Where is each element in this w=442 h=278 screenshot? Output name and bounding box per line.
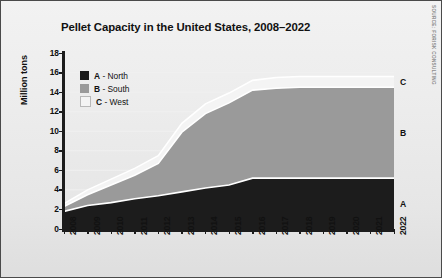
y-axis-tick-mark (59, 150, 62, 152)
x-axis-tick-2017: 2017 (280, 217, 290, 235)
y-axis-tick-mark (59, 209, 62, 211)
x-axis-tick-mark (299, 231, 301, 234)
x-axis-tick-2014: 2014 (209, 217, 219, 235)
legend-label: A - North (94, 71, 128, 81)
legend-label: B - South (94, 84, 129, 94)
x-axis-tick-2015: 2015 (233, 217, 243, 235)
x-axis-tick-mark (394, 231, 396, 234)
x-axis-tick-mark (252, 231, 254, 234)
legend-swatch-west (80, 96, 91, 107)
x-axis-tick-mark (87, 231, 89, 234)
y-axis-tick-12: 12 (50, 107, 59, 115)
legend-item-south[interactable]: B - South (80, 83, 129, 95)
chart-figure: Pellet Capacity in the United States, 20… (0, 0, 442, 278)
y-axis-tick-16: 16 (50, 68, 59, 76)
y-axis-tick-mark (59, 111, 62, 113)
x-axis-tick-2013: 2013 (186, 217, 196, 235)
source-note: SOURCE: FORISK CONSULTING (428, 5, 439, 125)
x-axis-tick-2020: 2020 (351, 217, 361, 235)
band-label-b: B (400, 128, 406, 138)
y-axis-tick-mark (59, 229, 62, 231)
legend-label: C - West (96, 97, 128, 107)
x-axis-tick-mark (346, 231, 348, 234)
x-axis-tick-mark (111, 231, 113, 234)
y-axis-tick-18: 18 (50, 49, 59, 57)
x-axis-tick-2019: 2019 (327, 217, 337, 235)
legend-swatch-south (80, 84, 89, 93)
legend-item-north[interactable]: A - North (80, 70, 129, 82)
x-axis-tick-2010: 2010 (115, 217, 125, 235)
x-axis-tick-2008: 2008 (68, 217, 78, 235)
x-axis-tick-mark (158, 231, 160, 234)
x-axis-tick-2011: 2011 (139, 217, 149, 235)
y-axis-tick-14: 14 (50, 88, 59, 96)
x-axis-tick-2016: 2016 (257, 217, 267, 235)
x-axis-tick-2022: 2022 (398, 217, 408, 235)
legend: A - NorthB - SouthC - West (80, 70, 129, 109)
x-axis-tick-2018: 2018 (304, 217, 314, 235)
y-axis-tick-mark (59, 170, 62, 172)
y-axis-tick-mark (59, 131, 62, 133)
legend-swatch-north (80, 71, 89, 80)
x-axis-tick-mark (205, 231, 207, 234)
y-axis-tick-mark (59, 53, 62, 55)
legend-item-west[interactable]: C - West (80, 96, 129, 108)
y-axis-tick-labels: 024681012141618 (31, 1, 59, 278)
y-axis-tick-mark (59, 92, 62, 94)
y-axis-tick-mark (59, 72, 62, 74)
x-axis-tick-2009: 2009 (92, 217, 102, 235)
x-axis-tick-mark (276, 231, 278, 234)
x-axis-tick-2021: 2021 (374, 217, 384, 235)
y-axis-title: Million tons (19, 55, 29, 105)
page-title: Pellet Capacity in the United States, 20… (61, 21, 310, 33)
x-axis-tick-mark (323, 231, 325, 234)
band-label-a: A (400, 199, 406, 209)
x-axis-tick-mark (229, 231, 231, 234)
band-label-c: C (400, 77, 406, 87)
y-axis-tick-mark (59, 189, 62, 191)
x-axis-tick-2012: 2012 (162, 217, 172, 235)
y-axis-tick-10: 10 (50, 127, 59, 135)
x-axis-tick-mark (370, 231, 372, 234)
x-axis-tick-mark (64, 231, 66, 234)
y-axis-line (62, 51, 65, 231)
x-axis-tick-mark (181, 231, 183, 234)
x-axis-tick-mark (134, 231, 136, 234)
